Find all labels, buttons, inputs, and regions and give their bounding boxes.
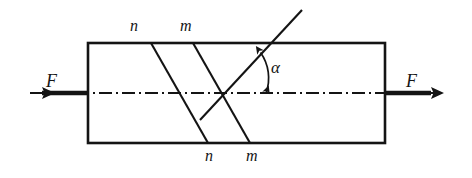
force-label-right: F — [406, 72, 417, 90]
section-label-m-top: m — [180, 18, 192, 34]
angle-label-alpha: α — [271, 59, 280, 76]
figure-container: F F n m n m α — [0, 0, 472, 178]
section-label-m-bottom: m — [246, 148, 258, 164]
force-label-left: F — [46, 72, 57, 90]
section-label-n-top: n — [130, 18, 138, 34]
section-label-n-bottom: n — [205, 148, 213, 164]
stress-diagram-svg — [0, 0, 472, 178]
